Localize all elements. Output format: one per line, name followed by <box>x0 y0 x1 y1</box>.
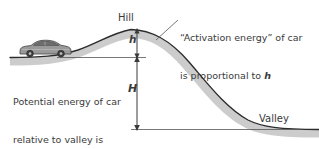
big-h-arrowhead-top <box>134 56 140 62</box>
activation-energy-callout: “Activation energy” of car is proportion… <box>180 7 302 107</box>
activation-energy-line-2: is proportional to h <box>180 70 302 83</box>
activation-callout-leader-line <box>156 20 178 40</box>
car <box>20 40 71 57</box>
activation-energy-line-2-text: is proportional to <box>180 70 264 81</box>
activation-energy-variable-h: h <box>264 70 271 81</box>
car-rear-hubcap <box>29 52 32 55</box>
activation-energy-line-1: “Activation energy” of car <box>180 32 302 45</box>
potential-energy-line-2: relative to valley is <box>13 134 121 147</box>
h-measure-label: h <box>129 33 136 47</box>
big-h-arrowhead-bottom <box>134 125 140 131</box>
valley-label: Valley <box>259 112 289 125</box>
hill-label: Hill <box>118 11 134 24</box>
potential-energy-line-1: Potential energy of car <box>13 96 121 109</box>
potential-energy-caption: Potential energy of car relative to vall… <box>13 71 121 149</box>
big-h-measure-label: H <box>128 82 137 97</box>
physics-energy-diagram: Hill Valley h H “Activation energy” of c… <box>0 0 319 149</box>
car-front-hubcap <box>60 52 63 55</box>
